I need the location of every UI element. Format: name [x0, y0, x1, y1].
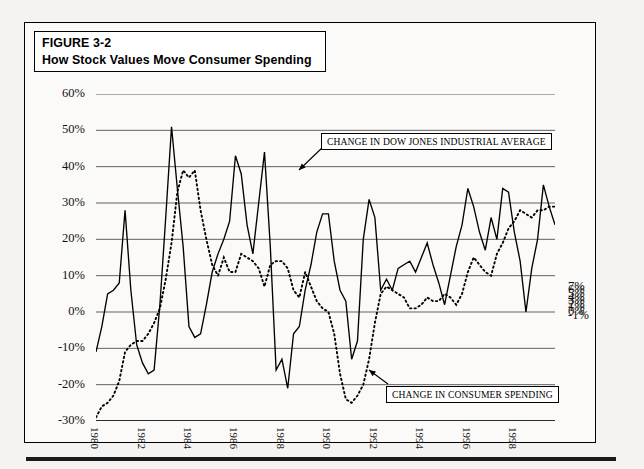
x-axis-tick-label: 1992	[368, 427, 380, 449]
x-axis-tick-label: 1998	[507, 427, 519, 449]
x-axis-tick-label: 1986	[228, 427, 240, 449]
x-axis-tick-label: 1980	[89, 427, 101, 449]
callout-consumer-spending: CHANGE IN CONSUMER SPENDING	[386, 386, 559, 403]
y-axis-left-tick: -20%	[25, 377, 85, 392]
y-axis-left-tick: 10%	[25, 268, 85, 283]
series-line-djia	[96, 127, 555, 389]
series-line-consumer-spending	[96, 170, 555, 417]
y-axis-left-tick: 50%	[25, 122, 85, 137]
y-axis-left-tick: 30%	[25, 195, 85, 210]
y-axis-left-tick: 40%	[25, 159, 85, 174]
y-axis-left-tick: 20%	[25, 231, 85, 246]
bottom-divider	[26, 457, 616, 461]
y-axis-left-tick: 60%	[25, 86, 85, 101]
figure-frame: FIGURE 3-2 How Stock Values Move Consume…	[24, 22, 596, 443]
y-axis-left-tick: -30%	[25, 413, 85, 428]
y-axis-left-tick: 0%	[25, 304, 85, 319]
callout-djia: CHANGE IN DOW JONES INDUSTRIAL AVERAGE	[321, 133, 552, 150]
y-axis-right-tick: -1%	[568, 308, 608, 323]
y-axis-left-tick: -10%	[25, 340, 85, 355]
x-axis-tick-label: 1994	[414, 427, 426, 449]
page-title: How Stock Values Move Consumer Spending	[42, 52, 318, 69]
callout-arrowhead-spending	[369, 370, 376, 376]
x-axis-tick-label: 1984	[182, 427, 194, 449]
x-axis-tick-label: 1988	[275, 427, 287, 449]
x-axis-tick-label: 1996	[461, 427, 473, 449]
figure-number: FIGURE 3-2	[42, 35, 318, 52]
x-axis-tick-label: 1982	[136, 427, 148, 449]
x-axis-tick-label: 1990	[321, 427, 333, 449]
figure-title-box: FIGURE 3-2 How Stock Values Move Consume…	[34, 31, 326, 72]
